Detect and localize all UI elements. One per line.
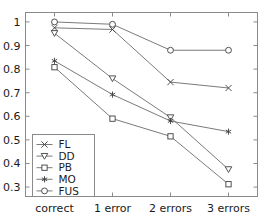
data-point-dd-3 bbox=[225, 167, 232, 173]
data-point-fus-0 bbox=[52, 19, 58, 25]
y-tick-label: 0.7 bbox=[3, 87, 21, 100]
series-fus bbox=[52, 19, 232, 53]
data-point-mo-0 bbox=[52, 58, 57, 64]
chart-legend: FLDDPBMOFUS bbox=[33, 135, 95, 197]
y-tick-label: 0.9 bbox=[3, 40, 21, 53]
data-point-fus-3 bbox=[226, 47, 232, 53]
y-tick-label: 0.3 bbox=[3, 181, 21, 194]
series-fl bbox=[51, 25, 231, 91]
data-point-dd-1 bbox=[109, 76, 116, 82]
data-point-pb-1 bbox=[110, 116, 115, 121]
series-line-fus bbox=[55, 22, 229, 50]
x-tick-label: 1 error bbox=[94, 202, 132, 215]
x-axis-tick-labels: correct1 error2 errors3 errors bbox=[35, 202, 250, 215]
data-point-legend-fus bbox=[42, 188, 48, 194]
y-tick-label: 0.6 bbox=[3, 110, 21, 123]
x-tick-label: 3 errors bbox=[207, 202, 250, 215]
data-point-mo-1 bbox=[110, 91, 115, 97]
chart-figure: 0.30.40.50.60.70.80.91 correct1 error2 e… bbox=[0, 0, 270, 224]
legend-label: PB bbox=[59, 161, 73, 173]
legend-label: FL bbox=[59, 138, 71, 150]
data-point-legend-pb bbox=[42, 165, 47, 170]
x-tick-label: 2 errors bbox=[149, 202, 192, 215]
legend-label: MO bbox=[59, 173, 76, 185]
y-tick-label: 1 bbox=[14, 16, 21, 29]
y-tick-label: 0.4 bbox=[3, 157, 21, 170]
y-tick-label: 0.8 bbox=[3, 63, 21, 76]
legend-label: DD bbox=[59, 150, 75, 162]
data-point-pb-2 bbox=[168, 134, 173, 139]
series-line-mo bbox=[55, 61, 229, 132]
data-point-pb-3 bbox=[226, 182, 231, 187]
data-point-pb-0 bbox=[52, 65, 57, 70]
y-axis-tick-labels: 0.30.40.50.60.70.80.91 bbox=[3, 16, 21, 194]
data-point-fus-1 bbox=[110, 21, 116, 27]
data-point-fus-2 bbox=[168, 47, 174, 53]
y-tick-label: 0.5 bbox=[3, 134, 21, 147]
x-tick-label: correct bbox=[35, 202, 74, 215]
line-chart-svg: 0.30.40.50.60.70.80.91 correct1 error2 e… bbox=[0, 0, 270, 224]
legend-label: FUS bbox=[59, 185, 80, 197]
series-mo bbox=[52, 58, 231, 135]
